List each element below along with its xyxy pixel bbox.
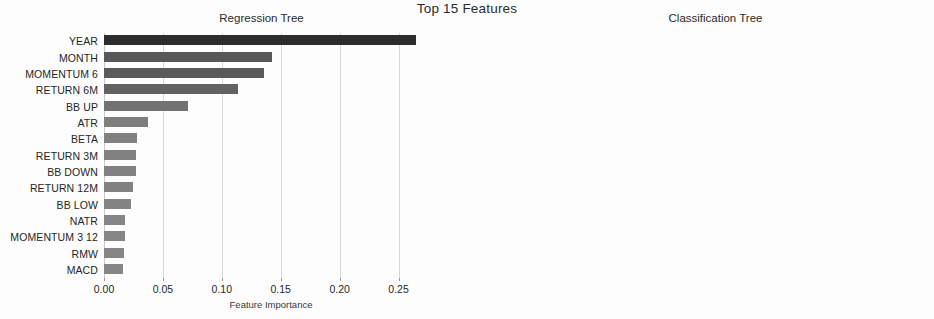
- x-tick-mark: [163, 278, 164, 281]
- bar: [104, 248, 124, 258]
- bar: [104, 150, 136, 160]
- panel-title-classification-tree: Classification Tree: [467, 12, 934, 24]
- x-tick-label: 0.00: [94, 283, 114, 295]
- bar: [104, 264, 123, 274]
- figure-canvas: Top 15 Features Regression Tree YEARMONT…: [0, 0, 934, 319]
- bar: [104, 35, 416, 45]
- bar: [104, 166, 136, 176]
- plot-area-regression-tree: YEARMONTHMOMENTUM 6RETURN 6MBB UPATRBETA…: [104, 33, 438, 278]
- y-tick-label: MACD: [67, 264, 98, 276]
- bar: [104, 182, 133, 192]
- y-tick-label: MOMENTUM 3 12: [10, 231, 98, 243]
- bar-row: MOMENTUM 6: [104, 66, 438, 82]
- bar-row: RETURN 3M: [104, 148, 438, 164]
- bar-row: MACD: [104, 262, 438, 278]
- bar: [104, 101, 188, 111]
- y-tick-label: RMW: [71, 248, 98, 260]
- bar-row: BB LOW: [104, 197, 438, 213]
- bar-row: YEAR: [104, 33, 438, 49]
- chart-panel-regression-tree: Regression Tree YEARMONTHMOMENTUM 6RETUR…: [0, 0, 467, 319]
- bar: [104, 199, 131, 209]
- x-tick-mark: [340, 278, 341, 281]
- bar-row: MONTH: [104, 50, 438, 66]
- y-tick-label: BB UP: [66, 101, 98, 113]
- y-tick-label: BETA: [71, 133, 98, 145]
- x-tick-mark: [222, 278, 223, 281]
- x-tick-label: 0.25: [388, 283, 408, 295]
- y-tick-label: MONTH: [59, 52, 98, 64]
- x-tick-label: 0.20: [329, 283, 349, 295]
- y-tick-label: RETURN 6M: [36, 84, 98, 96]
- panel-title-regression-tree: Regression Tree: [0, 12, 467, 24]
- y-tick-label: ATR: [77, 117, 98, 129]
- bar-row: BB UP: [104, 99, 438, 115]
- x-tick-label: 0.10: [212, 283, 232, 295]
- bar: [104, 231, 125, 241]
- y-tick-label: BB DOWN: [47, 166, 98, 178]
- bar: [104, 117, 148, 127]
- bar-row: RETURN 12M: [104, 180, 438, 196]
- y-tick-label: MOMENTUM 6: [25, 68, 98, 80]
- bar: [104, 52, 272, 62]
- y-tick-label: BB LOW: [57, 199, 98, 211]
- bar-row: RETURN 6M: [104, 82, 438, 98]
- bar-row: MOMENTUM 3 12: [104, 229, 438, 245]
- bars-regression-tree: YEARMONTHMOMENTUM 6RETURN 6MBB UPATRBETA…: [104, 33, 438, 278]
- y-tick-label: NATR: [70, 215, 98, 227]
- bar-row: RMW: [104, 246, 438, 262]
- bar: [104, 215, 125, 225]
- bar: [104, 133, 137, 143]
- x-tick-label: 0.15: [271, 283, 291, 295]
- x-tick-mark: [399, 278, 400, 281]
- chart-panel-classification-tree: Classification Tree MONTHYEARBB DOWNNATR…: [467, 0, 934, 319]
- x-tick-mark: [281, 278, 282, 281]
- bar-row: BETA: [104, 131, 438, 147]
- y-tick-label: RETURN 3M: [36, 150, 98, 162]
- y-tick-label: YEAR: [69, 35, 98, 47]
- bar: [104, 84, 238, 94]
- bar-row: NATR: [104, 213, 438, 229]
- bar-row: BB DOWN: [104, 164, 438, 180]
- y-tick-label: RETURN 12M: [30, 182, 98, 194]
- x-tick-label: 0.05: [153, 283, 173, 295]
- x-axis-ticks-regression-tree: 0.000.050.100.150.200.25: [104, 278, 438, 300]
- x-axis-label-regression-tree: Feature Importance: [104, 299, 438, 310]
- x-tick-mark: [104, 278, 105, 281]
- bar-row: ATR: [104, 115, 438, 131]
- bar: [104, 68, 264, 78]
